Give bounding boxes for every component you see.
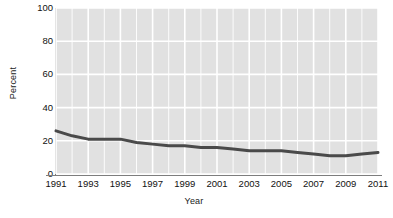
x-tick-label: 2011: [358, 178, 393, 189]
plot-area: [56, 8, 378, 174]
x-axis-spine: [46, 175, 382, 176]
y-axis-tick-labels: 020406080100: [0, 8, 53, 174]
y-tick-label: 20: [1, 135, 53, 146]
y-tick-label: 60: [1, 68, 53, 79]
data-series-line: [56, 8, 378, 174]
y-tick-label: 40: [1, 102, 53, 113]
y-tick-label: 80: [1, 35, 53, 46]
x-axis-tick-labels: 1991199319951997199920012003200520072009…: [56, 178, 378, 194]
y-tick-label: 100: [1, 2, 53, 13]
x-axis-title: Year: [0, 196, 388, 206]
